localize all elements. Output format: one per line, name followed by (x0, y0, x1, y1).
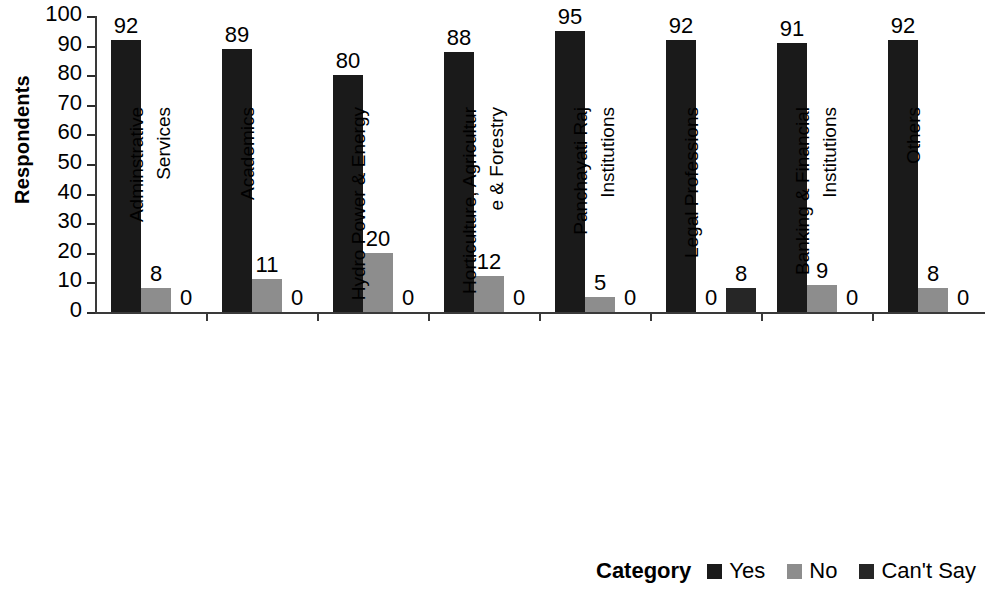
bar-value-label: 91 (780, 17, 804, 41)
y-axis-tick-label: 30 (58, 210, 82, 232)
x-axis-category-labels: AdminstrativeServicesAcademicsHydro Powe… (97, 322, 985, 542)
bar-value-label: 0 (291, 286, 303, 310)
category-label-line-2: e & Forestry (483, 107, 510, 322)
bar-slot: 0 (948, 16, 978, 312)
x-axis-category-label: Hydro Power & Energy (345, 107, 372, 322)
y-axis-tick-label: 0 (70, 299, 82, 321)
category-label-line-1: Banking & Financial (792, 107, 813, 275)
bar-chart: Respondents 1009080706050403020100 92808… (0, 0, 998, 595)
bar-slot: 0 (393, 16, 423, 312)
x-axis-category-label: Academics (234, 107, 261, 322)
bar-value-label: 92 (669, 14, 693, 38)
legend-swatch-icon (707, 564, 722, 579)
category-label-line-1: Legal Professions (681, 107, 702, 258)
bar-group: 9208 (652, 16, 763, 312)
category-label-line-2: Services (150, 107, 177, 322)
x-axis-group-separator (761, 312, 763, 321)
category-label-line-1: Others (903, 107, 924, 164)
legend-item[interactable]: No (787, 558, 837, 584)
bar-value-label: 0 (402, 286, 414, 310)
bar-slot: 8 (726, 16, 756, 312)
chart-legend: Category YesNoCan't Say (596, 558, 976, 584)
bar-value-label: 0 (705, 286, 717, 310)
legend-swatch-icon (787, 564, 802, 579)
legend-item[interactable]: Yes (707, 558, 765, 584)
x-axis-group-separator (206, 312, 208, 321)
bar-value-label: 80 (336, 49, 360, 73)
bar-value-label: 0 (624, 286, 636, 310)
category-label-line-2: Institutions (594, 107, 621, 322)
y-axis-tick-label: 70 (58, 92, 82, 114)
bar-value-label: 95 (558, 5, 582, 29)
x-axis-group-separator (872, 312, 874, 321)
y-axis-tick-label: 80 (58, 62, 82, 84)
bar-can-t-say: 8 (726, 288, 756, 312)
plot-area: 92808911080200881209550920891909280 (97, 16, 985, 312)
y-axis-tick-label: 20 (58, 240, 82, 262)
y-axis-tick-label: 40 (58, 181, 82, 203)
bar-group: 9280 (874, 16, 985, 312)
category-label-line-1: Panchayati Raj (570, 107, 591, 235)
bar-value-label: 89 (225, 23, 249, 47)
legend-item-label: Can't Say (881, 558, 976, 584)
legend-item[interactable]: Can't Say (859, 558, 976, 584)
x-axis-category-cell: Academics (208, 322, 319, 542)
category-label-line-1: Hydro Power & Energy (348, 107, 369, 300)
x-axis-group-separator (650, 312, 652, 321)
x-axis-category-label: AdminstrativeServices (123, 107, 177, 322)
x-axis-category-cell: Banking & FinancialInstitutions (763, 322, 874, 542)
y-axis-tick-label: 50 (58, 151, 82, 173)
x-axis-category-label: Horticulture, Agriculture & Forestry (456, 107, 510, 322)
category-label-line-1: Adminstrative (126, 107, 147, 222)
y-axis-title: Respondents (11, 40, 34, 240)
bar-value-label: 92 (891, 14, 915, 38)
x-axis-category-label: Banking & FinancialInstitutions (789, 107, 843, 322)
y-axis-tick-label: 60 (58, 121, 82, 143)
legend-item-label: No (809, 558, 837, 584)
bar-value-label: 8 (735, 262, 747, 286)
legend-item-label: Yes (729, 558, 765, 584)
bar-slot: 0 (282, 16, 312, 312)
bar-value-label: 0 (180, 286, 192, 310)
x-axis-category-cell: Panchayati RajInstitutions (541, 322, 652, 542)
x-axis-category-label: Panchayati RajInstitutions (567, 107, 621, 322)
y-axis: 1009080706050403020100 (34, 8, 96, 320)
bar-group: 89110 (208, 16, 319, 312)
x-axis-category-label: Others (900, 107, 927, 322)
bar-value-label: 0 (513, 286, 525, 310)
x-axis-category-label: Legal Professions (678, 107, 705, 322)
category-label-line-1: Horticulture, Agricultur (459, 107, 480, 294)
y-axis-tick-label: 10 (58, 269, 82, 291)
y-axis-tick-label: 90 (58, 33, 82, 55)
bar-value-label: 8 (927, 262, 939, 286)
x-axis-category-cell: Hydro Power & Energy (319, 322, 430, 542)
x-axis-category-cell: Horticulture, Agriculture & Forestry (430, 322, 541, 542)
legend-swatch-icon (859, 564, 874, 579)
x-axis-group-separator (539, 312, 541, 321)
bar-value-label: 92 (114, 14, 138, 38)
x-axis-group-separator (317, 312, 319, 321)
x-axis-category-cell: Legal Professions (652, 322, 763, 542)
y-axis-tick-label: 100 (45, 3, 82, 25)
category-label-line-2: Institutions (816, 107, 843, 322)
x-axis-group-separator (428, 312, 430, 321)
bar-value-label: 88 (447, 26, 471, 50)
bar-group: 80200 (319, 16, 430, 312)
category-label-line-1: Academics (237, 107, 258, 200)
legend-title: Category (596, 558, 691, 584)
bar-value-label: 0 (846, 286, 858, 310)
x-axis-category-cell: Others (874, 322, 985, 542)
x-axis-category-cell: AdminstrativeServices (97, 322, 208, 542)
bar-value-label: 0 (957, 286, 969, 310)
